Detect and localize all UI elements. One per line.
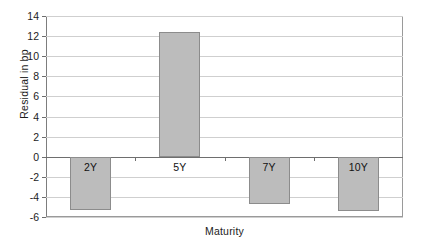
y-axis-tick bbox=[42, 157, 46, 158]
y-axis-label: -6 bbox=[30, 211, 39, 223]
y-axis-tick bbox=[42, 56, 46, 57]
plot-area: -6-4-202468101214 2Y5Y7Y10Y bbox=[46, 16, 403, 217]
y-axis-label: -2 bbox=[30, 171, 39, 183]
y-axis-tick bbox=[42, 177, 46, 178]
y-axis-label: 6 bbox=[33, 90, 39, 102]
bar-category-label: 5Y bbox=[173, 161, 186, 173]
y-axis-label: 8 bbox=[33, 70, 39, 82]
gridline bbox=[46, 96, 403, 97]
y-axis-tick bbox=[42, 36, 46, 37]
y-axis-label: 14 bbox=[27, 10, 39, 22]
gridline bbox=[46, 76, 403, 77]
x-axis-tick bbox=[225, 157, 226, 161]
gridline bbox=[46, 137, 403, 138]
bar-category-label: 2Y bbox=[84, 161, 97, 173]
y-axis-label: 4 bbox=[33, 111, 39, 123]
gridline bbox=[46, 56, 403, 57]
gridline bbox=[46, 217, 403, 218]
y-axis-tick bbox=[42, 76, 46, 77]
y-axis-tick bbox=[42, 96, 46, 97]
y-axis-label: -4 bbox=[30, 191, 39, 203]
gridline bbox=[46, 117, 403, 118]
y-axis-label: 0 bbox=[33, 151, 39, 163]
y-axis-label: 2 bbox=[33, 131, 39, 143]
bar-chart: Residual in bp -6-4-202468101214 2Y5Y7Y1… bbox=[0, 0, 442, 246]
gridline bbox=[46, 36, 403, 37]
bar-category-label: 10Y bbox=[349, 161, 368, 173]
y-axis-tick bbox=[42, 217, 46, 218]
y-axis-tick bbox=[42, 16, 46, 17]
gridline bbox=[46, 16, 403, 17]
y-axis-label: 12 bbox=[27, 30, 39, 42]
y-axis-tick bbox=[42, 197, 46, 198]
y-axis-tick bbox=[42, 137, 46, 138]
y-axis-label: 10 bbox=[27, 50, 39, 62]
x-axis-title: Maturity bbox=[46, 225, 403, 237]
x-axis-tick bbox=[314, 157, 315, 161]
bar-category-label: 7Y bbox=[263, 161, 276, 173]
bar bbox=[159, 32, 200, 157]
x-axis-tick bbox=[135, 157, 136, 161]
y-axis-tick bbox=[42, 117, 46, 118]
